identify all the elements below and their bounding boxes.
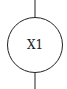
component-label: X1 [27, 38, 43, 52]
component-symbol: X1 [0, 0, 67, 89]
